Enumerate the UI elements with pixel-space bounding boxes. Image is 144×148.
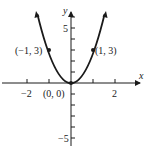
tick-label-neg2: −2: [21, 88, 32, 99]
x-axis-label: x: [138, 70, 144, 81]
point-label-neg1-3: (−1, 3): [15, 45, 42, 57]
parabola-chart: y x −2 2 5 −5 (−1, 3) (0, 0) (1, 3): [0, 0, 144, 148]
tick-label-pos5: 5: [63, 23, 68, 34]
point-label-1-3: (1, 3): [95, 45, 117, 57]
point-origin: [69, 81, 73, 85]
point-neg1-3: [47, 48, 51, 52]
y-axis-label: y: [62, 5, 68, 16]
y-ticks: [71, 17, 75, 138]
tick-label-pos2: 2: [112, 88, 117, 99]
tick-label-neg5: −5: [58, 133, 69, 144]
point-label-origin: (0, 0): [43, 88, 65, 100]
